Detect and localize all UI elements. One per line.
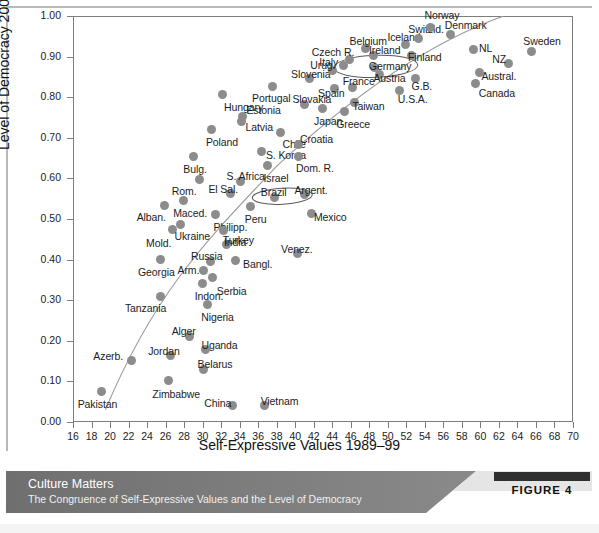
x-tick — [369, 422, 370, 428]
y-tick-label: 1.00 — [21, 10, 61, 21]
y-tick-label: 0.10 — [21, 375, 61, 386]
x-tick — [166, 422, 167, 428]
x-tick — [332, 422, 333, 428]
x-tick — [314, 422, 315, 428]
x-tick — [221, 422, 222, 428]
y-tick-label: 0.60 — [21, 172, 61, 183]
x-tick — [129, 422, 130, 428]
x-tick — [388, 422, 389, 428]
x-tick — [240, 422, 241, 428]
y-tick-label: 0.00 — [21, 416, 61, 427]
y-tick-label: 0.70 — [21, 132, 61, 143]
x-tick — [554, 422, 555, 428]
x-tick — [73, 422, 74, 428]
x-tick — [462, 422, 463, 428]
x-axis: 1618202224262830323436384042444648505254… — [73, 16, 573, 422]
figure-label: FIGURE 4 — [494, 484, 590, 496]
caption-title: Culture Matters — [28, 476, 362, 492]
x-tick — [258, 422, 259, 428]
x-tick — [443, 422, 444, 428]
caption-subtitle: The Congruence of Self-Expressive Values… — [28, 492, 362, 507]
x-tick — [351, 422, 352, 428]
x-tick — [147, 422, 148, 428]
y-tick-label: 0.40 — [21, 254, 61, 265]
x-tick — [406, 422, 407, 428]
x-tick — [425, 422, 426, 428]
y-tick-label: 0.80 — [21, 91, 61, 102]
caption-bar: Culture Matters The Congruence of Self-E… — [6, 471, 592, 513]
figure-page: Level of Democracy 2000–04 PakistanAzerb… — [0, 0, 599, 533]
scatter-chart: Level of Democracy 2000–04 PakistanAzerb… — [0, 0, 599, 455]
x-tick — [573, 422, 574, 428]
x-tick — [92, 422, 93, 428]
y-tick-label: 0.20 — [21, 335, 61, 346]
x-tick — [295, 422, 296, 428]
x-axis-title: Self-Expressive Values 1989–99 — [0, 437, 599, 453]
bottom-strip — [0, 524, 599, 533]
x-tick — [110, 422, 111, 428]
x-tick — [480, 422, 481, 428]
y-tick-label: 0.90 — [21, 51, 61, 62]
x-tick — [277, 422, 278, 428]
figure-bar — [494, 472, 590, 481]
y-tick-label: 0.30 — [21, 294, 61, 305]
x-tick — [184, 422, 185, 428]
caption-text: Culture Matters The Congruence of Self-E… — [28, 476, 362, 507]
y-axis-title: Level of Democracy 2000–04 — [0, 0, 12, 150]
y-tick-label: 0.50 — [21, 213, 61, 224]
x-tick — [499, 422, 500, 428]
x-tick — [536, 422, 537, 428]
x-tick — [203, 422, 204, 428]
x-tick — [517, 422, 518, 428]
figure-badge: FIGURE 4 — [494, 472, 590, 496]
